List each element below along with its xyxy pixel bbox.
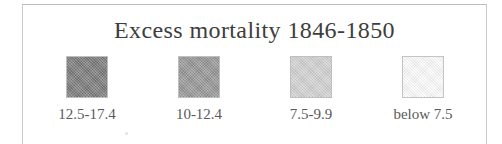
legend-entry: 12.5-17.4	[33, 56, 141, 123]
legend-label-12-5-17-4: 12.5-17.4	[58, 105, 116, 123]
legend-label-10-12-4: 10-12.4	[176, 105, 222, 123]
legend-swatch-12-5-17-4	[66, 56, 108, 98]
legend-entry: 10-12.4	[145, 56, 253, 123]
legend-entry: below 7.5	[369, 56, 477, 123]
legend-swatch-10-12-4	[178, 56, 220, 98]
legend-label-below-7-5: below 7.5	[393, 105, 452, 123]
map-legend-figure: Excess mortality 1846-1850 12.5-17.4 10-…	[0, 0, 502, 144]
legend-title: Excess mortality 1846-1850	[22, 16, 487, 44]
legend-swatch-below-7-5	[402, 56, 444, 98]
legend-entry: 7.5-9.9	[257, 56, 365, 123]
scan-artifact-speck	[125, 132, 128, 135]
legend-entry-list: 12.5-17.4 10-12.4 7.5-9.9 below 7.5	[33, 56, 477, 123]
legend-label-7-5-9-9: 7.5-9.9	[290, 105, 333, 123]
legend-swatch-7-5-9-9	[290, 56, 332, 98]
